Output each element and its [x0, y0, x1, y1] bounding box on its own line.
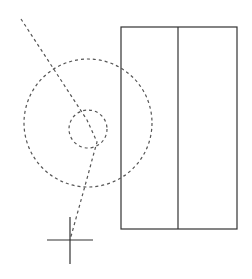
background [0, 0, 252, 279]
diagram-canvas [0, 0, 252, 279]
